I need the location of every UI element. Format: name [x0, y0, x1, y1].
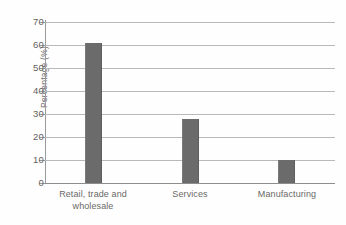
y-axis-tick-label: 20 [33, 132, 44, 142]
y-axis-tick-label: 70 [33, 17, 44, 27]
x-axis-category-label-line: Manufacturing [227, 188, 346, 200]
y-axis-tick-label: 10 [33, 155, 44, 165]
y-axis-tick-label: 50 [33, 63, 44, 73]
bar-chart-figure: Percentage (%) 010203040506070 Retail, t… [0, 0, 346, 225]
x-axis-category-label: Manufacturing [227, 188, 346, 200]
x-axis-baseline [45, 183, 335, 184]
y-axis-tick-label: 30 [33, 109, 44, 119]
bar [85, 43, 102, 183]
x-axis-category-label-line: wholesale [33, 200, 153, 212]
y-axis-tick-label: 40 [33, 86, 44, 96]
bar [278, 160, 295, 183]
y-axis-tick-label: 0 [39, 178, 44, 188]
bar [182, 119, 199, 183]
y-axis-tick-label: 60 [33, 40, 44, 50]
plot-area [45, 22, 335, 183]
